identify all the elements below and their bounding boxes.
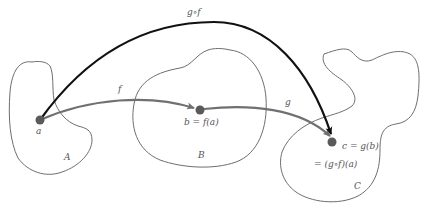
label-arrow-g: g: [285, 98, 291, 107]
arrow-g: [204, 107, 330, 136]
point-a: [36, 116, 45, 125]
diagram-canvas: [0, 0, 448, 214]
label-arrow-composite: g∘f: [187, 8, 201, 17]
region-a: [9, 61, 92, 174]
label-region-a: A: [64, 153, 71, 162]
label-region-b: B: [198, 151, 205, 160]
label-point-c-composite: = (g∘f)(a): [314, 160, 357, 169]
point-b: [196, 106, 205, 115]
composition-diagram: a b = f(a) c = g(b) = (g∘f)(a) f g g∘f A…: [0, 0, 448, 214]
point-c: [328, 138, 337, 147]
label-point-c: c = g(b): [342, 142, 379, 151]
label-region-c: C: [354, 182, 361, 191]
label-point-a: a: [36, 127, 41, 136]
label-arrow-f: f: [118, 85, 121, 94]
label-point-b: b = f(a): [184, 118, 219, 127]
